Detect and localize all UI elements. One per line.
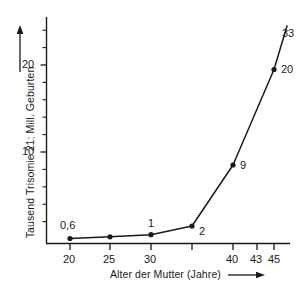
data-point-age-20 [67, 236, 72, 241]
x-axis-ticks [70, 244, 274, 251]
data-label-age-40: 9 [240, 160, 246, 171]
data-point-age-25 [107, 234, 112, 239]
x-axis-title: Alter der Mutter (Jahre) [110, 269, 221, 280]
x-tick-label-20: 20 [63, 254, 75, 265]
x-axis-direction-arrow [228, 272, 265, 279]
data-point-age-35 [189, 223, 194, 228]
y-axis-title: Tausend Trisomie 21: Mill. Geburten [25, 68, 36, 238]
data-point-age-30 [148, 232, 153, 237]
x-tick-label-40: 40 [226, 254, 238, 265]
data-label-age-30: 1 [148, 218, 154, 229]
data-point-markers [67, 67, 276, 241]
chart-plot-area [0, 0, 299, 289]
x-tick-label-43: 43 [250, 254, 262, 265]
data-point-age-45 [271, 67, 276, 72]
data-label-end-33: 33 [282, 28, 294, 39]
x-tick-label-25: 25 [103, 254, 115, 265]
data-label-age-35: 2 [199, 226, 205, 237]
x-tick-label-30: 30 [144, 254, 156, 265]
data-label-age-20: 0,6 [60, 220, 75, 231]
data-line-trisomy21 [70, 26, 287, 239]
trisomy-age-chart: 20 10 20 25 30 40 43 45 0,6 1 2 9 20 33 … [0, 0, 299, 289]
y-axis-major-ticks [41, 65, 47, 152]
data-point-age-40 [230, 162, 235, 167]
data-label-age-45: 20 [281, 64, 293, 75]
x-tick-label-45: 45 [268, 254, 280, 265]
